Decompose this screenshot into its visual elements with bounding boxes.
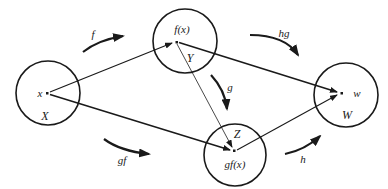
map-label-hg: hg [279,27,291,39]
set-label-z: Z [234,127,241,141]
curved-arrow-f [83,36,123,52]
point-w [341,92,344,95]
set-label-y: Y [187,51,195,65]
set-label-w: W [342,108,353,122]
diagram-canvas: X Y Z W x f(x) gf(x) w f g h gf hg [0,0,388,189]
element-label-gfx: gf(x) [225,158,246,171]
curved-arrow-h [285,136,320,154]
curved-arrow-hg [250,35,298,55]
point-gfx [233,150,236,153]
map-label-gf: gf [118,154,129,166]
point-fx [176,41,179,44]
element-label-w: w [353,87,361,99]
curved-arrow-g [211,75,227,109]
map-label-g: g [227,81,233,93]
element-label-fx: f(x) [174,23,190,36]
point-x [46,92,49,95]
arrow-x-to-gfx [50,95,230,151]
map-label-h: h [300,153,306,165]
curved-arrow-gf [104,139,149,154]
set-label-x: X [40,109,49,123]
function-composition-diagram: X Y Z W x f(x) gf(x) w f g h gf hg [0,0,388,189]
map-label-f: f [91,28,96,40]
set-y-circle [153,9,217,73]
arrow-gfx-to-w [237,95,337,150]
element-label-x: x [37,87,43,99]
